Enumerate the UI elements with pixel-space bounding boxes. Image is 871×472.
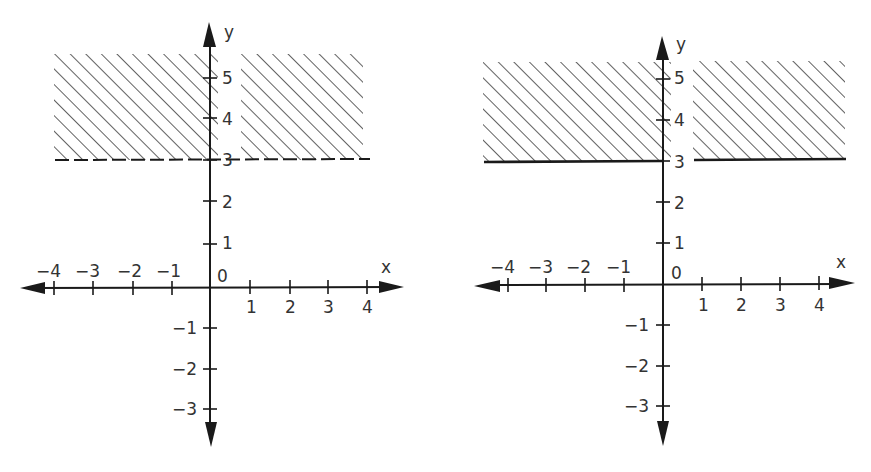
y-axis-up-arrow-icon — [203, 22, 216, 47]
y-axis-label: y — [224, 22, 234, 42]
x-tick-label: 4 — [814, 295, 825, 315]
y-tick-label: −1 — [624, 315, 649, 335]
y-tick-label: −1 — [172, 318, 197, 338]
shaded-region-left-part — [483, 62, 671, 161]
x-axis — [30, 287, 393, 288]
x-tick-label: −2 — [566, 257, 591, 277]
y-tick-label: 1 — [222, 233, 233, 253]
boundary-line-solid — [694, 159, 846, 160]
x-tick-label: −1 — [606, 257, 631, 277]
x-axis-right-arrow-icon — [379, 281, 404, 293]
x-axis-left-arrow-icon — [474, 280, 500, 292]
y-tick-label: 4 — [674, 110, 685, 130]
x-axis — [485, 284, 845, 285]
origin-label: 0 — [217, 266, 228, 286]
x-axis-left-arrow-icon — [20, 282, 45, 294]
x-tick-label: −3 — [75, 261, 100, 281]
shaded-region-left-part — [54, 54, 218, 160]
x-tick-label: 2 — [736, 295, 747, 315]
y-tick-label: −2 — [172, 359, 197, 379]
x-tick-label: 3 — [323, 297, 334, 317]
left-graph: y x 0 −4 −3 −2 −1 1 2 3 4 5 4 3 2 1 −1 −… — [20, 22, 404, 447]
shaded-region-right-part — [241, 54, 363, 160]
y-tick-label: −2 — [624, 356, 649, 376]
y-axis-label: y — [676, 34, 686, 54]
y-tick-label: 3 — [674, 152, 685, 172]
y-tick-label: 2 — [222, 192, 233, 212]
x-tick-label: 1 — [246, 297, 257, 317]
y-axis-down-arrow-icon — [657, 421, 669, 446]
x-tick-label: 3 — [775, 295, 786, 315]
y-axis-down-arrow-icon — [205, 422, 217, 447]
right-graph: y x 0 −4 −3 −2 −1 1 2 3 4 5 4 3 2 1 −1 −… — [474, 34, 855, 446]
figure: y x 0 −4 −3 −2 −1 1 2 3 4 5 4 3 2 1 −1 −… — [0, 0, 871, 472]
y-tick-label: −3 — [624, 396, 649, 416]
x-tick-label: −2 — [117, 261, 142, 281]
x-tick-label: 4 — [362, 297, 373, 317]
y-tick-label: 5 — [674, 68, 685, 88]
x-axis-label: x — [836, 252, 846, 272]
x-tick-label: 1 — [698, 295, 709, 315]
x-tick-label: 2 — [285, 297, 296, 317]
x-axis-label: x — [381, 257, 391, 277]
boundary-line-solid — [484, 161, 662, 162]
x-tick-label: −3 — [528, 257, 553, 277]
origin-label: 0 — [671, 263, 682, 283]
x-tick-label: −1 — [156, 261, 181, 281]
y-tick-label: 1 — [674, 233, 685, 253]
y-tick-label: 3 — [222, 150, 233, 170]
shaded-region-right-part — [693, 61, 845, 160]
y-tick-label: −3 — [172, 399, 197, 419]
y-tick-label: 5 — [222, 68, 233, 88]
x-tick-label: −4 — [36, 261, 61, 281]
y-tick-label: 4 — [222, 109, 233, 129]
x-axis-right-arrow-icon — [829, 277, 855, 289]
x-tick-label: −4 — [490, 257, 515, 277]
y-axis-up-arrow-icon — [656, 36, 669, 60]
y-tick-label: 2 — [674, 193, 685, 213]
